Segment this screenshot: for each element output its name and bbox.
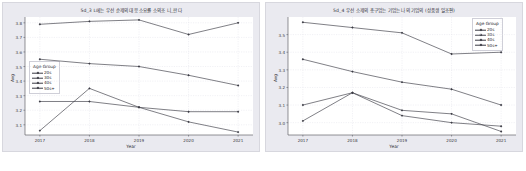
data-point-30s-2017 [302, 104, 304, 106]
chart-svg-Avg [266, 3, 524, 153]
y-tick-fig-right-2: 3.2 [274, 85, 285, 90]
y-tick-fig-left-4: 3.5 [11, 64, 22, 69]
y-tick-fig-left-7: 3.8 [11, 20, 22, 25]
data-point-40s-2021 [237, 84, 239, 86]
data-point-30s-2019 [401, 109, 403, 111]
x-tick-fig-left-2021: 2021 [233, 138, 243, 143]
x-tick-fig-right-2017: 2017 [298, 138, 308, 143]
data-point-40s-2020 [187, 74, 189, 76]
y-tick-fig-left-2: 3.3 [11, 93, 22, 98]
chart-figure-right: 5d_4 우선 소제의 총구업는 기업는 나의 기업의 (상품생 일조편) Av… [265, 2, 523, 152]
chart-figure-left: 5d_3 L에는 우선 순제의 대응 소요률 소의조 니_판다 Avg Year… [2, 2, 260, 152]
y-tick-fig-right-0: 3.0 [274, 120, 285, 125]
data-point-40s-2020 [450, 88, 452, 90]
data-point-20s-2021 [500, 125, 502, 127]
y-tick-fig-right-4: 3.4 [274, 50, 285, 55]
x-tick-fig-left-2017: 2017 [35, 138, 45, 143]
data-point-30s-2017 [39, 100, 41, 102]
data-point-50s+-2020 [187, 33, 189, 35]
x-tick-fig-right-2021: 2021 [496, 138, 506, 143]
x-tick-fig-left-2019: 2019 [134, 138, 144, 143]
data-point-40s-2017 [39, 58, 41, 60]
y-tick-fig-left-3: 3.4 [11, 79, 22, 84]
x-tick-fig-right-2019: 2019 [397, 138, 407, 143]
y-tick-fig-right-1: 3.1 [274, 103, 285, 108]
data-point-30s-2020 [450, 113, 452, 115]
x-tick-fig-right-2020: 2020 [446, 138, 456, 143]
x-tick-fig-left-2020: 2020 [183, 138, 193, 143]
y-tick-fig-right-3: 3.3 [274, 67, 285, 72]
screenshot-root: 5d_3 L에는 우선 순제의 대응 소요률 소의조 니_판다 Avg Year… [0, 0, 526, 171]
y-tick-fig-left-5: 3.6 [11, 49, 22, 54]
data-point-40s-2021 [500, 104, 502, 106]
data-point-30s-2018 [88, 100, 90, 102]
data-point-20s-2019 [401, 114, 403, 116]
data-point-20s-2020 [187, 121, 189, 123]
data-point-40s-2017 [302, 58, 304, 60]
data-point-50s+-2021 [237, 22, 239, 24]
data-point-50s+-2019 [138, 19, 140, 21]
data-point-40s-2019 [401, 81, 403, 83]
data-point-40s-2018 [88, 62, 90, 64]
data-point-30s-2021 [237, 110, 239, 112]
data-point-50s+-2017 [302, 21, 304, 23]
data-point-30s-2021 [500, 130, 502, 132]
y-tick-fig-left-6: 3.7 [11, 35, 22, 40]
data-point-20s-2020 [450, 121, 452, 123]
data-point-50s+-2017 [39, 23, 41, 25]
data-point-40s-2019 [138, 65, 140, 67]
data-point-50s+-2018 [88, 20, 90, 22]
y-tick-fig-left-1: 3.2 [11, 108, 22, 113]
y-tick-fig-right-5: 3.5 [274, 32, 285, 37]
data-point-30s-2020 [187, 110, 189, 112]
data-point-40s-2018 [351, 70, 353, 72]
data-point-50s+-2018 [351, 26, 353, 28]
data-point-50s+-2021 [500, 51, 502, 53]
chart-svg-Avg [3, 3, 261, 153]
data-point-20s-2021 [237, 131, 239, 133]
data-point-30s-2019 [138, 106, 140, 108]
x-tick-fig-right-2018: 2018 [347, 138, 357, 143]
x-tick-fig-left-2018: 2018 [84, 138, 94, 143]
y-tick-fig-left-0: 3.1 [11, 122, 22, 127]
data-point-50s+-2019 [401, 32, 403, 34]
data-point-50s+-2020 [450, 53, 452, 55]
